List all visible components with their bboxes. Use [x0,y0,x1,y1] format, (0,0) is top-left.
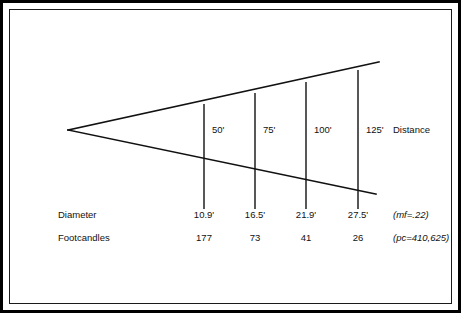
cell-diameter-125ft: 27.5' [348,209,368,220]
cell-footcandles-125ft: 26 [353,232,364,243]
cell-footcandles-50ft: 177 [196,232,212,243]
upper-beam-ray [68,62,379,130]
station-lines-group [204,70,358,209]
data-rows-group: Diameter10.9'16.5'21.9'27.5'(mf=.22)Foot… [58,209,449,243]
beam-spread-figure: 50'75'100'125' Distance Diameter10.9'16.… [0,0,461,313]
cell-diameter-100ft: 21.9' [296,209,316,220]
row-label-footcandles: Footcandles [58,232,110,243]
distance-label-50ft: 50' [212,124,225,135]
cell-footcandles-75ft: 73 [250,232,261,243]
lower-beam-ray [68,130,376,194]
distance-axis-caption: Distance [393,124,430,135]
distance-label-100ft: 100' [314,124,332,135]
distance-label-125ft: 125' [366,124,384,135]
cell-diameter-75ft: 16.5' [245,209,265,220]
note-diameter: (mf=.22) [393,209,429,220]
distance-label-75ft: 75' [263,124,276,135]
row-label-diameter: Diameter [58,209,97,220]
beam-diagram-canvas: 50'75'100'125' Distance Diameter10.9'16.… [0,0,461,313]
cell-diameter-50ft: 10.9' [194,209,214,220]
note-footcandles: (pc=410,625) [393,232,449,243]
cell-footcandles-100ft: 41 [301,232,312,243]
